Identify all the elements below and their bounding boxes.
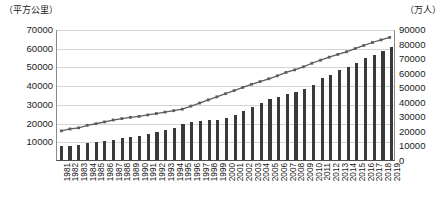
x-axis-tick-label: 1996 [194,163,202,181]
x-axis-tick-label: 2019 [394,163,402,181]
line-marker [276,74,279,77]
x-axis-tick-label: 2006 [281,163,289,181]
line-marker [224,92,227,95]
right-axis-tick-label: 90000 [394,25,447,35]
line-marker [155,112,158,115]
line-marker [354,47,357,50]
line-marker [60,129,63,132]
line-marker [181,108,184,111]
line-marker [103,121,106,124]
x-axis-tick-label: 1999 [220,163,228,181]
line-marker [302,65,305,68]
line-marker [215,95,218,98]
left-axis-tick-label: 70000 [1,25,57,35]
left-axis-tick-label: 10000 [1,137,57,147]
line-marker [250,83,253,86]
x-axis-tick-labels: 1981198219831984198519861987198819891990… [56,163,395,208]
line-marker [241,86,244,89]
left-axis-tick-label: 20000 [1,119,57,129]
line-marker [233,89,236,92]
line-marker [86,124,89,127]
line-marker [267,77,270,80]
x-axis-tick-label: 2012 [333,163,341,181]
chart-figure: （平方公里） （万人） 7000060000500004000030000200… [0,0,447,208]
left-axis-tick-label: 50000 [1,62,57,72]
left-axis-unit-label: （平方公里） [4,3,58,16]
x-axis-tick-label: 1983 [81,163,89,181]
line-marker [94,122,97,125]
line-marker [138,115,141,118]
x-axis-tick-label: 1993 [168,163,176,181]
line-marker [146,114,149,117]
line-marker [112,119,115,122]
x-axis-tick-label: 1986 [107,163,115,181]
right-axis-tick-label: 10000 [394,141,447,151]
line-marker [380,39,383,42]
line-path [61,37,389,130]
left-axis-tick-label: 30000 [1,100,57,110]
line-marker [328,56,331,59]
right-axis-tick-label: 70000 [394,54,447,64]
left-axis-tick-label: 60000 [1,44,57,54]
left-axis-tick-label: 40000 [1,81,57,91]
line-marker [285,71,288,74]
line-marker [120,117,123,120]
line-marker [190,105,193,108]
right-axis-tick-label: 80000 [394,40,447,50]
right-axis-tick-label: 50000 [394,83,447,93]
line-marker [336,53,339,56]
line-marker [293,68,296,71]
line-marker [172,109,175,112]
line-marker [371,41,374,44]
line-marker [164,111,167,114]
right-axis-unit-label: （万人） [405,3,441,16]
line-marker [69,128,72,131]
line-marker [198,102,201,105]
x-axis-tick-label: 2009 [307,163,315,181]
line-marker [129,116,132,119]
line-marker [345,50,348,53]
line-marker [362,44,365,47]
line-marker [388,36,391,39]
line-marker [259,80,262,83]
line-marker [77,126,80,129]
line-marker [207,99,210,102]
right-axis-tick-label: 60000 [394,69,447,79]
right-axis-tick-label: 20000 [394,127,447,137]
line-marker [311,62,314,65]
line-marker [319,59,322,62]
plot-area: 70000600005000040000300002000010000 9000… [56,30,395,161]
right-axis-tick-label: 30000 [394,112,447,122]
line-series-layer [57,30,394,160]
right-axis-tick-label: 40000 [394,98,447,108]
